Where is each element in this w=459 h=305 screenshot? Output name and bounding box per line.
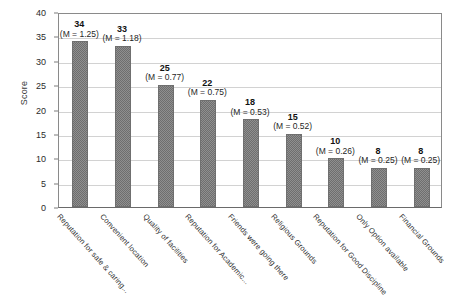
y-axis-tick-labels: 4035302520151050 xyxy=(0,0,54,305)
bar[interactable] xyxy=(243,119,259,207)
y-axis-tick-label: 10 xyxy=(36,155,46,164)
y-axis-tick-label: 35 xyxy=(36,33,46,42)
x-axis-category-label: Religious Grounds xyxy=(269,212,319,266)
y-axis-tick-label: 30 xyxy=(36,57,46,66)
y-axis-tick-label: 15 xyxy=(36,130,46,139)
bar[interactable] xyxy=(328,158,344,207)
y-axis-tick-label: 25 xyxy=(36,82,46,91)
x-axis-category-label: Convenient location xyxy=(98,212,151,269)
bar[interactable] xyxy=(115,46,131,207)
plot-area xyxy=(58,13,442,208)
bar[interactable] xyxy=(286,134,302,207)
y-axis-tick-label: 0 xyxy=(41,204,46,213)
y-axis-tick-label: 40 xyxy=(36,9,46,18)
bar[interactable] xyxy=(371,168,387,207)
bar[interactable] xyxy=(158,85,174,207)
bar[interactable] xyxy=(72,41,88,207)
bar[interactable] xyxy=(414,168,430,207)
x-axis-category-label: Friends were going there xyxy=(226,212,291,282)
y-axis-tick-label: 5 xyxy=(41,179,46,188)
x-axis-category-label: Reputation for Good Discipline xyxy=(312,212,390,297)
x-axis-category-label: Only Option available xyxy=(354,212,410,273)
x-axis-category-label: Reputation for safe & caring... xyxy=(56,212,132,295)
y-axis-tick-label: 20 xyxy=(36,106,46,115)
bar[interactable] xyxy=(200,100,216,207)
bars-layer xyxy=(59,14,441,207)
x-axis-category-label: Financial Grounds xyxy=(397,212,446,265)
bar-chart: Score 4035302520151050 34(M = 1.25)33(M … xyxy=(0,0,459,305)
x-axis-category-label: Quality of facilities xyxy=(141,212,190,265)
x-axis-category-label: Reputation for Academic... xyxy=(184,212,252,286)
